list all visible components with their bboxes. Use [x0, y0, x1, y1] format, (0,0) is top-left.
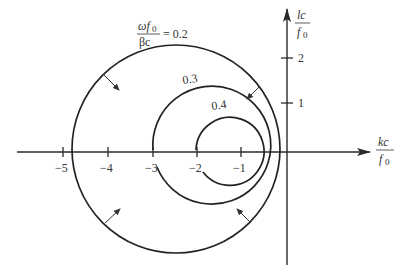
y-axis-label-subscript: 0	[303, 30, 308, 40]
diagram-canvas: −5 −4 −3 −2 −1 1 2 kc f 0 lc f 0	[0, 0, 404, 276]
y-axis-label: lc f 0	[295, 8, 310, 40]
diagram-figure: −5 −4 −3 −2 −1 1 2 kc f 0 lc f 0	[0, 0, 404, 276]
curve-label-0-3: 0.3	[181, 71, 198, 87]
arrow-icon	[103, 74, 119, 90]
y-axis-label-numerator: lc	[297, 8, 306, 22]
x-tick-label: −3	[145, 161, 158, 175]
direction-arrows	[103, 74, 259, 223]
y-tick-label: 2	[298, 51, 304, 65]
y-tick-label: 1	[298, 96, 304, 110]
arrow-icon	[247, 87, 259, 99]
curve-label-value: = 0.2	[163, 27, 188, 41]
x-tick-label: −4	[100, 161, 113, 175]
x-tick-label: −1	[233, 161, 246, 175]
x-axis-label-numerator: kc	[378, 135, 389, 149]
curve-label-0-4: 0.4	[210, 97, 227, 113]
x-axis-label-subscript: 0	[385, 157, 390, 167]
curve-label-numerator: ωf	[138, 19, 151, 33]
arrow-icon	[105, 209, 120, 223]
x-tick-label: −5	[55, 161, 68, 175]
y-axis-label-denominator: f	[297, 25, 302, 39]
arrow-icon	[237, 209, 250, 222]
curve-label-subscript: 0	[152, 24, 157, 34]
locus-curve-0-2	[72, 45, 280, 253]
curve-label-denominator: βc	[139, 35, 150, 49]
x-axis-label: kc f 0	[376, 135, 394, 167]
x-tick-label: −2	[189, 161, 202, 175]
x-axis-label-denominator: f	[379, 152, 384, 166]
